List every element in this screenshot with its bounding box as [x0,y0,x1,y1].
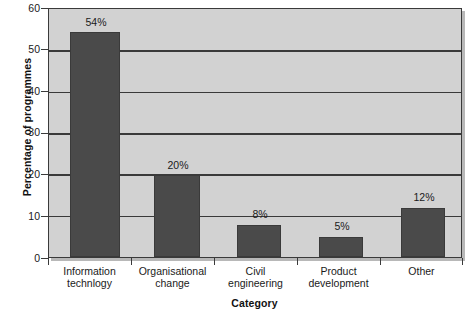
x-axis-title-wrap: Category [0,297,474,309]
y-tick-mark [41,258,48,259]
x-category-label-other: Other [380,266,463,278]
x-axis-title: Category [231,297,277,309]
x-category-label-product-development: Product development [297,266,380,289]
x-tick-mark [214,258,215,265]
y-tick-label: 0 [2,253,40,264]
bar-value-label: 5% [297,221,387,232]
x-category-label-civil-engineering: Civil engineering [214,266,297,289]
bar-value-label: 8% [215,209,305,220]
x-category-label-line2: development [297,278,380,290]
x-category-label-line1: Civil [214,266,297,278]
y-tick-label: 10 [2,211,40,222]
bar-information-technlogy [70,32,120,257]
x-category-label-line2: change [131,278,214,290]
y-tick-mark [41,216,48,217]
bar-civil-engineering [237,225,281,258]
bar-value-label: 12% [379,192,469,203]
y-tick-label: 30 [2,127,40,138]
bar-value-label: 20% [132,160,224,171]
x-category-label-line1: Information [48,266,131,278]
x-tick-mark [462,258,463,265]
x-category-label-organisational-change: Organisational change [131,266,214,289]
bar-other [401,208,445,257]
bar-organisational-change [154,175,200,258]
x-category-label-information-technlogy: Information technlogy [48,266,131,289]
x-category-label-line2: technlogy [48,278,131,290]
y-tick-mark [41,174,48,175]
plot-area [48,8,462,258]
y-tick-mark [41,8,48,9]
bar-value-label: 54% [48,17,144,28]
bar-product-development [319,237,363,258]
bar-chart: Percentage of programmes 60 50 40 30 20 … [0,0,474,316]
y-tick-mark [41,91,48,92]
x-category-label-line1: Product [297,266,380,278]
x-category-label-line1: Organisational [131,266,214,278]
y-tick-label: 20 [2,169,40,180]
y-tick-label: 40 [2,86,40,97]
x-tick-mark [48,258,49,265]
x-tick-mark [297,258,298,265]
y-tick-label: 60 [2,3,40,14]
y-axis-tick-labels: 60 50 40 30 20 10 0 [0,0,40,316]
x-category-label-line1: Other [380,266,463,278]
x-category-label-line2: engineering [214,278,297,290]
y-tick-label: 50 [2,44,40,55]
x-tick-mark [131,258,132,265]
y-tick-mark [41,133,48,134]
y-tick-mark [41,49,48,50]
x-tick-mark [380,258,381,265]
